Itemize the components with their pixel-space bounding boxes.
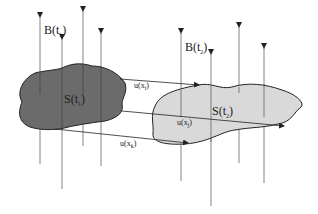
surface-label-t1: S(t1) (64, 92, 85, 107)
velocity-label-i: u(xi) (134, 81, 149, 91)
velocity-label-k: u(xk) (120, 139, 137, 149)
field-label-t2: B(t2) (185, 40, 207, 55)
velocity-arrow-i (120, 79, 199, 85)
velocity-label-j: u(xj) (177, 118, 192, 128)
flux-advection-diagram: B(t1) B(t2) S(t1) S(t2) u(xi) u(xj) u(xk… (0, 0, 318, 214)
field-label-t1: B(t1) (44, 23, 66, 38)
surface-label-t2: S(t2) (212, 104, 233, 119)
